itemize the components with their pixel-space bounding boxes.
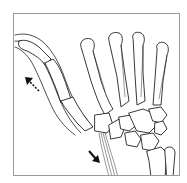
carpal-bones xyxy=(95,107,167,151)
illustration-frame xyxy=(13,13,180,176)
thumb-bones xyxy=(18,40,93,131)
forearm-bones xyxy=(147,147,175,176)
hand-skeleton-illustration xyxy=(14,14,180,176)
finger-bones xyxy=(81,32,169,115)
arrow-down-right-icon xyxy=(89,151,100,163)
tendons xyxy=(99,133,118,176)
arrow-up-left-icon xyxy=(25,77,39,91)
